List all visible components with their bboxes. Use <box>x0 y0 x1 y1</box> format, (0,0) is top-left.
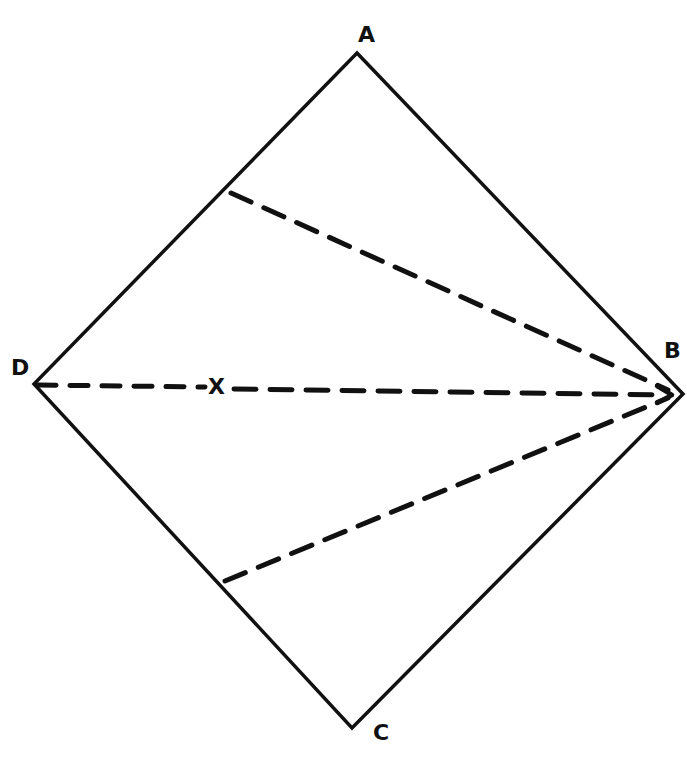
dashed-line-lower <box>225 398 668 581</box>
vertex-label-c: C <box>373 722 389 744</box>
dashed-line-middle-left <box>38 385 205 387</box>
diagram-canvas <box>0 0 687 781</box>
vertex-label-d: D <box>11 357 29 379</box>
dashed-line-upper <box>231 193 668 390</box>
point-label-x: X <box>208 376 225 398</box>
vertex-label-a: A <box>358 24 375 46</box>
vertex-label-b: B <box>664 340 681 362</box>
dashed-line-middle-right <box>234 389 664 395</box>
